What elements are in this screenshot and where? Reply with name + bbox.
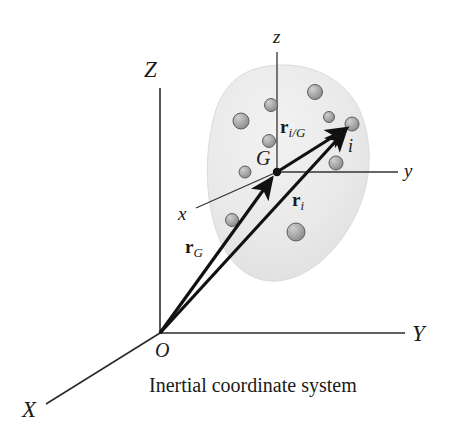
axis-label-Z: Z xyxy=(144,58,157,81)
particle xyxy=(265,99,278,112)
vector-subscript-r-i-over-G: i/G xyxy=(288,125,305,140)
particle xyxy=(329,156,343,170)
axis-label-x-body: x xyxy=(178,204,186,223)
inertial-X-axis xyxy=(46,333,160,404)
axis-label-Y: Y xyxy=(412,322,425,345)
particle xyxy=(263,135,276,148)
vector-subscript-r-i: i xyxy=(300,198,304,213)
vector-label-r-i: ri xyxy=(292,190,304,212)
origin-label-O: O xyxy=(155,340,169,360)
particle xyxy=(239,166,251,178)
point-G-marker xyxy=(273,168,281,176)
figure-root: Z Y X O z y x G i rG ri ri/G Inertial co… xyxy=(0,0,449,446)
particle xyxy=(308,85,323,100)
vector-subscript-r-G: G xyxy=(193,245,203,260)
particle xyxy=(324,112,335,123)
axis-label-y-body: y xyxy=(404,161,412,180)
vector-label-r-i-over-G: ri/G xyxy=(280,117,306,139)
rigid-body-blob xyxy=(207,65,369,281)
point-label-i: i xyxy=(348,137,353,155)
axis-label-z-body: z xyxy=(273,27,280,46)
particle xyxy=(287,223,305,241)
figure-caption: Inertial coordinate system xyxy=(149,375,357,395)
point-label-G: G xyxy=(256,148,270,168)
particle xyxy=(233,113,249,129)
axis-label-X: X xyxy=(22,398,36,421)
vector-label-r-G: rG xyxy=(185,237,203,259)
